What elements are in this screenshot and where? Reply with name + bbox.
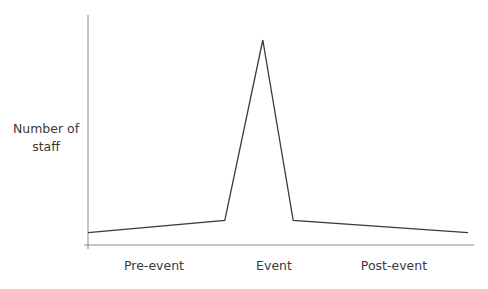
staff-line-series [88, 40, 468, 233]
x-tick-label-post-event: Post-event [339, 258, 449, 273]
x-tick-label-pre-event: Pre-event [99, 258, 209, 273]
y-axis-label-line1: Number of [5, 120, 87, 138]
y-axis-label-line2: staff [5, 138, 87, 156]
x-tick-label-event: Event [219, 258, 329, 273]
y-axis-label: Number of staff [5, 120, 87, 156]
